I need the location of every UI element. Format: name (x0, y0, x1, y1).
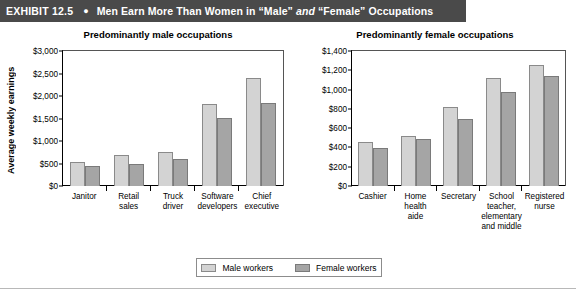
x-axis-label-line: School (481, 192, 522, 202)
x-axis-label-line: executive (241, 202, 283, 212)
x-axis-label: Softwaredevelopers (195, 192, 239, 212)
category-separator-tick (106, 186, 107, 191)
x-axis-label-line: developers (196, 202, 238, 212)
x-axis-label-line: Janitor (63, 192, 105, 202)
x-axis-label: Truckdriver (151, 192, 195, 212)
bar-group (239, 51, 283, 186)
x-axis-label-line: elementary (481, 212, 522, 222)
exhibit-title-italic: and (296, 5, 315, 17)
x-axis-label: Schoolteacher,elementaryand middle (480, 192, 523, 232)
bar-female (416, 139, 431, 186)
legend-item-female: Female workers (295, 263, 376, 273)
x-axis-label: Janitor (62, 192, 106, 202)
bar-male (401, 136, 416, 186)
bar-female (173, 159, 188, 186)
x-axis-label-line: aide (395, 212, 436, 222)
bar-group (195, 51, 239, 186)
bar-group (63, 51, 107, 186)
bar-group (352, 51, 395, 186)
bar-group (437, 51, 480, 186)
bullet-dot-icon: ● (83, 7, 88, 16)
x-axis-label-line: Software (196, 192, 238, 202)
x-axis-label-line: nurse (524, 202, 565, 212)
bar-female (544, 76, 559, 186)
x-axis-label-line: Chief (241, 192, 283, 202)
chart-title-male: Predominantly male occupations (0, 29, 294, 40)
bar-female (261, 103, 276, 186)
category-separator-tick (238, 186, 239, 191)
exhibit-header-bar: EXHIBIT 12.5 ● Men Earn More Than Women … (0, 0, 466, 22)
bar-male (158, 152, 173, 186)
x-axis-label-line: Secretary (438, 192, 479, 202)
bottom-divider (0, 288, 576, 289)
bar-male (443, 107, 458, 186)
bar-female (458, 119, 473, 187)
x-axis-label-line: and middle (481, 222, 522, 232)
bar-male (202, 104, 217, 186)
x-axis-label: Cashier (351, 192, 394, 202)
bar-group (480, 51, 523, 186)
chart-title-female: Predominantly female occupations (294, 29, 576, 40)
bar-male (246, 78, 261, 186)
x-axis-label-line: Retail (107, 192, 149, 202)
bar-female (85, 166, 100, 186)
bar-female (217, 118, 232, 186)
x-axis-label-line: health (395, 202, 436, 212)
x-axis-label: Registerednurse (523, 192, 566, 212)
x-axis-label-line: Truck (152, 192, 194, 202)
bar-female (373, 148, 388, 186)
exhibit-title: Men Earn More Than Women in “Male” and “… (97, 5, 434, 17)
bar-male (486, 78, 501, 186)
bar-group (522, 51, 565, 186)
legend-swatch-male-icon (201, 264, 216, 272)
exhibit-title-part1: Men Earn More Than Women in “Male” (97, 5, 296, 17)
legend-label-female: Female workers (316, 263, 376, 273)
category-separator-tick (150, 186, 151, 191)
plot-area-female: $1,400$1,200$1,000$800$600$400$200$0 (351, 50, 566, 186)
bar-male (114, 155, 129, 186)
bar-groups-female (352, 51, 565, 186)
legend-item-male: Male workers (201, 263, 273, 273)
category-separator-tick (394, 186, 395, 191)
bar-group (107, 51, 151, 186)
x-axis-label: Secretary (437, 192, 480, 202)
bar-male (529, 65, 544, 186)
x-axis-labels-female: CashierHomehealthaideSecretarySchoolteac… (351, 192, 566, 232)
bar-female (501, 92, 516, 186)
x-axis-label: Retailsales (106, 192, 150, 212)
bar-male (70, 162, 85, 186)
x-axis-label-line: sales (107, 202, 149, 212)
charts-area: Predominantly male occupations Average w… (0, 22, 576, 254)
exhibit-title-part2: “Female” Occupations (315, 5, 433, 17)
x-axis-label: Homehealthaide (394, 192, 437, 222)
bar-group (151, 51, 195, 186)
x-axis-label-line: Cashier (352, 192, 393, 202)
bar-groups-male (63, 51, 283, 186)
bar-group (395, 51, 438, 186)
x-axis-label: Chiefexecutive (240, 192, 284, 212)
chart-panel-male-occupations: Predominantly male occupations Average w… (0, 22, 294, 254)
x-axis-labels-male: JanitorRetailsalesTruckdriverSoftwaredev… (62, 192, 284, 212)
legend-swatch-female-icon (295, 264, 310, 272)
chart-panel-female-occupations: Predominantly female occupations $1,400$… (294, 22, 576, 254)
bar-female (129, 164, 144, 186)
legend-label-male: Male workers (222, 263, 273, 273)
category-separator-tick (436, 186, 437, 191)
bar-male (358, 142, 373, 186)
x-axis-label-line: Home (395, 192, 436, 202)
x-axis-label-line: teacher, (481, 202, 522, 212)
category-separator-tick (521, 186, 522, 191)
category-separator-tick (194, 186, 195, 191)
x-axis-label-line: Registered (524, 192, 565, 202)
chart-legend: Male workers Female workers (196, 258, 382, 277)
category-separator-tick (479, 186, 480, 191)
exhibit-number-label: EXHIBIT 12.5 (6, 5, 73, 17)
x-axis-label-line: driver (152, 202, 194, 212)
plot-area-male: $3,000$2,500$2,000$1,500$1,000$500$0 (62, 50, 284, 186)
y-axis-title: Average weekly earnings (4, 50, 18, 190)
